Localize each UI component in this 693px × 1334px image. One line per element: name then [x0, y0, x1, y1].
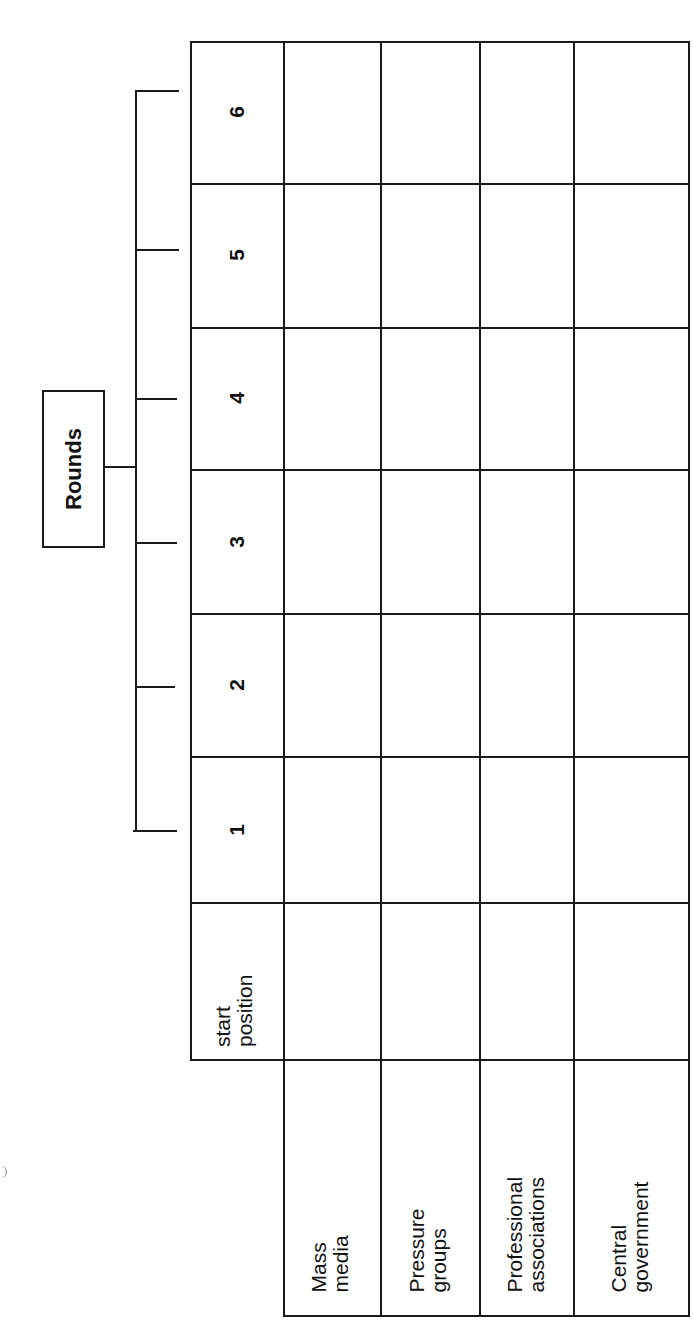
row-label-central-government: Central government — [605, 1098, 655, 1293]
rounds-label: Rounds — [59, 392, 89, 547]
round-header-6: 6 — [222, 70, 252, 154]
grid-line — [190, 327, 690, 329]
bracket-tick-6 — [135, 90, 179, 92]
bracket-tick-4 — [135, 398, 177, 400]
row-label-pressure-groups: Pressure groups — [403, 1098, 453, 1293]
grid-line — [688, 43, 690, 1317]
grid-line — [283, 1315, 688, 1317]
bracket-connector — [105, 466, 136, 468]
grid-line — [190, 756, 690, 758]
rounds-label-box: Rounds — [42, 390, 105, 548]
grid-line — [190, 613, 690, 615]
bracket-tick-2 — [135, 686, 175, 688]
row-label-professional-associations: Professional associations — [501, 1098, 551, 1293]
grid-line — [190, 41, 192, 1061]
grid-line — [190, 41, 690, 43]
row-label-mass-media: Mass media — [305, 1098, 355, 1293]
grid-line — [190, 183, 690, 185]
bracket-tick-1 — [133, 830, 177, 832]
round-header-4: 4 — [222, 356, 252, 440]
grid-line — [190, 902, 690, 904]
grid-line — [283, 42, 285, 1317]
grid-line — [190, 1059, 690, 1061]
start-position-header: start position — [210, 927, 258, 1047]
round-header-2: 2 — [222, 643, 252, 727]
round-header-1: 1 — [222, 788, 252, 872]
grid-line — [380, 42, 382, 1317]
grid-line — [479, 42, 481, 1317]
round-header-3: 3 — [222, 500, 252, 584]
grid-line — [190, 469, 690, 471]
grid-line — [573, 43, 575, 1317]
scan-mark — [0, 1166, 7, 1178]
round-header-5: 5 — [222, 213, 252, 297]
bracket-spine — [135, 90, 137, 832]
bracket-tick-5 — [135, 249, 179, 251]
bracket-tick-3 — [135, 542, 177, 544]
